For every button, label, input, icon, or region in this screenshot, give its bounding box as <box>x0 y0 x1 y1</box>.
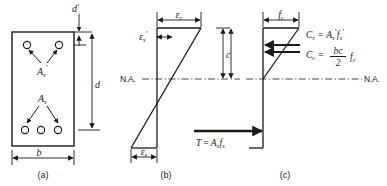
strain-diagonal <box>131 28 201 148</box>
epsilon-s-prime-mark: ′ <box>145 30 147 39</box>
dimension-d: d <box>78 34 101 130</box>
tension-force-lhs: T <box>196 138 202 148</box>
compression-steel-prime: ′ <box>46 64 48 73</box>
tension-force-group: T=Asfs <box>194 131 262 149</box>
fc-subscript: c <box>281 14 284 21</box>
svg-text:fc: fc <box>278 9 284 21</box>
equation-compression-steel-force: Cs=As′fs′ <box>306 28 344 42</box>
dimension-epsilon-s-prime: εs′ <box>139 30 172 44</box>
neutral-axis-label-b: N.A. <box>120 74 136 84</box>
cs-stress-prime: ′ <box>342 28 344 37</box>
dimension-d-prime: d′ <box>72 3 92 33</box>
d-symbol: d <box>95 79 101 90</box>
rebar-compression-1 <box>23 41 30 48</box>
cs-lhs-subscript: s <box>312 34 315 41</box>
rebar-compression-2 <box>55 41 62 48</box>
tension-force-equation: T=Asfs <box>196 138 225 149</box>
c-depth-symbol-b: c <box>226 49 231 60</box>
stress-diagonal <box>263 28 299 79</box>
cc-fraction-denominator: 2 <box>336 58 341 68</box>
tension-force-stress-subscript: s <box>222 142 225 149</box>
label-compression-steel: As′ <box>36 64 48 78</box>
cc-stress-subscript: c <box>353 56 356 63</box>
panel-b-label: (b) <box>161 170 172 180</box>
neutral-axis-label-c: N.A. <box>364 74 380 84</box>
cc-operator: = <box>318 50 323 60</box>
dimension-c-depth-b: c <box>216 28 231 78</box>
svg-text:εc: εc <box>176 9 183 21</box>
tension-steel-subscript: s <box>44 98 47 105</box>
leader-compression-2 <box>47 50 57 63</box>
d-prime-mark: ′ <box>77 3 79 12</box>
cc-lhs-subscript: c <box>312 54 315 61</box>
label-tension-steel: As <box>37 93 47 105</box>
svg-text:fc: fc <box>350 52 356 63</box>
svg-text:As′: As′ <box>36 64 48 78</box>
svg-text:As: As <box>37 93 47 105</box>
panel-c-stress-diagram: N.A. fc Cs=As′fs′ <box>231 9 380 180</box>
dimension-b: b <box>12 147 74 165</box>
rebar-tension-2 <box>37 126 44 133</box>
panel-c-label: (c) <box>280 170 291 180</box>
dimension-fc: fc <box>263 9 299 27</box>
leader-tension-2 <box>47 106 58 123</box>
tension-force-operator: = <box>203 138 208 148</box>
svg-text:Cc=: Cc= <box>306 50 324 61</box>
b-symbol: b <box>37 147 42 158</box>
panel-a-label: (a) <box>38 170 49 180</box>
rebar-tension-3 <box>54 126 61 133</box>
equation-concrete-compression-force: Cc= bc 2 fc <box>306 46 356 68</box>
leader-compression-1 <box>29 50 41 63</box>
figure-container: As′ As d′ <box>0 0 387 186</box>
cs-operator: = <box>318 30 323 40</box>
leader-tension-1 <box>27 106 39 123</box>
epsilon-c-subscript: c <box>180 14 183 21</box>
svg-text:Cs=As′fs′: Cs=As′fs′ <box>306 28 344 42</box>
panel-a-cross-section: As′ As d′ <box>12 3 101 181</box>
dimension-epsilon-c: εc <box>157 9 201 27</box>
panel-b-strain-diagram: N.A. εc εs′ <box>120 9 262 180</box>
figure-svg: As′ As d′ <box>0 0 387 186</box>
rebar-tension-1 <box>21 126 28 133</box>
compression-force-arrows <box>265 45 300 52</box>
cc-fraction-numerator: bc <box>334 46 344 56</box>
svg-text:d′: d′ <box>72 3 79 15</box>
svg-text:εs′: εs′ <box>139 30 147 44</box>
